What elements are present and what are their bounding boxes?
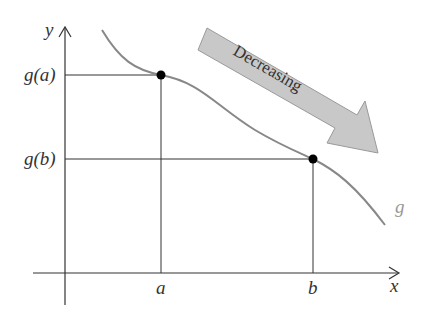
decreasing-function-diagram: Decreasing y x g(a) g(b) a b g (0, 0, 425, 317)
guide-lines (65, 75, 313, 273)
label-g-b: g(b) (24, 148, 56, 170)
point-a (157, 71, 166, 80)
axes (33, 27, 399, 305)
y-axis-label: y (43, 19, 54, 40)
label-g-a: g(a) (24, 64, 56, 86)
decreasing-arrow: Decreasing (198, 28, 378, 153)
function-label: g (395, 196, 405, 217)
point-b (309, 155, 318, 164)
x-axis-label: x (389, 275, 399, 296)
label-b: b (308, 277, 318, 298)
label-a: a (156, 277, 166, 298)
